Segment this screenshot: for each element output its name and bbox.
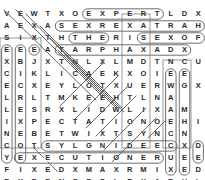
- grid-cell[interactable]: I: [150, 68, 164, 80]
- grid-cell[interactable]: E: [137, 140, 151, 152]
- grid-cell[interactable]: L: [0, 92, 14, 104]
- grid-cell[interactable]: D: [191, 164, 205, 176]
- grid-cell[interactable]: A: [123, 44, 137, 56]
- grid-cell[interactable]: C: [55, 116, 69, 128]
- grid-cell[interactable]: R: [164, 20, 178, 32]
- grid-cell[interactable]: H: [109, 92, 123, 104]
- grid-cell[interactable]: C: [55, 152, 69, 164]
- grid-cell[interactable]: E: [150, 32, 164, 44]
- grid-cell[interactable]: M: [137, 164, 151, 176]
- grid-cell[interactable]: T: [68, 32, 82, 44]
- grid-cell[interactable]: L: [109, 56, 123, 68]
- grid-cell[interactable]: E: [41, 116, 55, 128]
- grid-cell[interactable]: E: [178, 152, 192, 164]
- grid-cell[interactable]: U: [191, 56, 205, 68]
- grid-cell[interactable]: O: [137, 68, 151, 80]
- grid-cell[interactable]: L: [68, 80, 82, 92]
- grid-cell[interactable]: A: [164, 104, 178, 116]
- grid-cell[interactable]: S: [27, 104, 41, 116]
- grid-cell[interactable]: S: [0, 32, 14, 44]
- grid-cell[interactable]: W: [164, 80, 178, 92]
- grid-cell[interactable]: R: [14, 92, 28, 104]
- grid-cell[interactable]: M: [55, 92, 69, 104]
- grid-cell[interactable]: N: [123, 152, 137, 164]
- grid-cell[interactable]: D: [96, 104, 110, 116]
- grid-cell[interactable]: Y: [137, 128, 151, 140]
- grid-cell[interactable]: L: [27, 92, 41, 104]
- grid-cell[interactable]: L: [137, 92, 151, 104]
- grid-cell[interactable]: [191, 68, 205, 80]
- grid-cell[interactable]: E: [0, 44, 14, 56]
- grid-cell[interactable]: C: [0, 68, 14, 80]
- grid-cell[interactable]: E: [82, 176, 96, 180]
- grid-cell[interactable]: L: [109, 176, 123, 180]
- grid-cell[interactable]: [191, 92, 205, 104]
- grid-cell[interactable]: M: [82, 164, 96, 176]
- grid-cell[interactable]: N: [0, 128, 14, 140]
- grid-cell[interactable]: G: [178, 80, 192, 92]
- grid-cell[interactable]: A: [68, 44, 82, 56]
- grid-cell[interactable]: R: [123, 164, 137, 176]
- grid-cell[interactable]: [191, 128, 205, 140]
- grid-cell[interactable]: A: [137, 20, 151, 32]
- grid-cell[interactable]: L: [164, 8, 178, 20]
- grid-cell[interactable]: D: [191, 140, 205, 152]
- grid-cell[interactable]: R: [150, 80, 164, 92]
- grid-cell[interactable]: R: [109, 32, 123, 44]
- grid-cell[interactable]: X: [164, 164, 178, 176]
- grid-cell[interactable]: U: [68, 152, 82, 164]
- grid-cell[interactable]: C: [164, 140, 178, 152]
- grid-cell[interactable]: I: [150, 164, 164, 176]
- grid-cell[interactable]: T: [96, 80, 110, 92]
- grid-cell[interactable]: O: [82, 80, 96, 92]
- grid-cell[interactable]: X: [27, 20, 41, 32]
- grid-cell[interactable]: O: [123, 116, 137, 128]
- grid-cell[interactable]: E: [178, 164, 192, 176]
- grid-cell[interactable]: X: [191, 8, 205, 20]
- grid-cell[interactable]: S: [123, 128, 137, 140]
- grid-cell[interactable]: T: [123, 92, 137, 104]
- grid-cell[interactable]: S: [68, 176, 82, 180]
- grid-cell[interactable]: F: [191, 32, 205, 44]
- grid-cell[interactable]: A: [150, 44, 164, 56]
- grid-cell[interactable]: A: [41, 20, 55, 32]
- grid-cell[interactable]: E: [123, 176, 137, 180]
- grid-cell[interactable]: X: [137, 44, 151, 56]
- grid-cell[interactable]: T: [150, 20, 164, 32]
- grid-cell[interactable]: E: [27, 44, 41, 56]
- grid-cell[interactable]: A: [178, 20, 192, 32]
- grid-cell[interactable]: A: [164, 92, 178, 104]
- grid-cell[interactable]: [178, 92, 192, 104]
- grid-cell[interactable]: C: [164, 128, 178, 140]
- grid-cell[interactable]: Y: [0, 152, 14, 164]
- grid-cell[interactable]: L: [191, 176, 205, 180]
- grid-cell[interactable]: F: [0, 164, 14, 176]
- grid-cell[interactable]: I: [14, 32, 28, 44]
- grid-cell[interactable]: P: [27, 176, 41, 180]
- grid-cell[interactable]: X: [96, 56, 110, 68]
- grid-cell[interactable]: T: [41, 32, 55, 44]
- grid-cell[interactable]: X: [0, 56, 14, 68]
- grid-cell[interactable]: R: [41, 104, 55, 116]
- grid-cell[interactable]: I: [96, 152, 110, 164]
- grid-cell[interactable]: G: [82, 140, 96, 152]
- grid-cell[interactable]: N: [96, 140, 110, 152]
- grid-cell[interactable]: X: [164, 32, 178, 44]
- grid-cell[interactable]: N: [164, 56, 178, 68]
- grid-cell[interactable]: X: [41, 56, 55, 68]
- grid-cell[interactable]: R: [137, 8, 151, 20]
- grid-cell[interactable]: T: [55, 128, 69, 140]
- grid-cell[interactable]: T: [41, 8, 55, 20]
- grid-cell[interactable]: P: [27, 116, 41, 128]
- grid-cell[interactable]: Y: [55, 140, 69, 152]
- grid-cell[interactable]: C: [68, 68, 82, 80]
- grid-cell[interactable]: E: [0, 80, 14, 92]
- grid-cell[interactable]: E: [41, 164, 55, 176]
- grid-cell[interactable]: X: [137, 176, 151, 180]
- grid-cell[interactable]: E: [96, 32, 110, 44]
- grid-cell[interactable]: E: [41, 176, 55, 180]
- grid-cell[interactable]: X: [27, 164, 41, 176]
- letter-grid[interactable]: VEWTXOEXPERTLDXAEXASEXREXATRAHSIXTHTHERI…: [0, 8, 205, 180]
- grid-cell[interactable]: D: [55, 164, 69, 176]
- grid-cell[interactable]: U: [123, 80, 137, 92]
